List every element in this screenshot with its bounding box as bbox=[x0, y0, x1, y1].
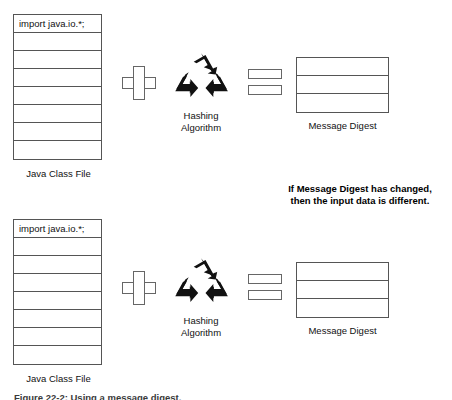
digest-line bbox=[297, 263, 388, 281]
class-file-line bbox=[14, 69, 101, 87]
hashing-algorithm-label: Hashing Algorithm bbox=[168, 315, 234, 338]
java-class-file-bottom: import java.io.*; bbox=[13, 219, 104, 384]
class-file-code-text: import java.io.*; bbox=[19, 19, 84, 29]
recycle-icon bbox=[173, 257, 229, 311]
class-file-code-text: import java.io.*; bbox=[19, 224, 84, 234]
hashing-label-line-1: Hashing bbox=[168, 315, 234, 327]
recycle-icon bbox=[173, 52, 229, 106]
plus-sign-icon bbox=[122, 66, 156, 100]
class-file-line bbox=[14, 328, 101, 346]
class-file-line bbox=[14, 238, 101, 256]
class-file-line bbox=[14, 274, 101, 292]
class-file-line bbox=[14, 33, 101, 51]
hashing-algorithm-bottom: Hashing Algorithm bbox=[168, 257, 234, 338]
class-file-line bbox=[14, 292, 101, 310]
equals-lower-bar bbox=[248, 290, 282, 300]
message-digest-box bbox=[296, 262, 389, 318]
class-file-line: import java.io.*; bbox=[14, 15, 101, 33]
hashing-algorithm-label: Hashing Algorithm bbox=[168, 110, 234, 133]
class-file-line bbox=[14, 105, 101, 123]
note-line-1: If Message Digest has changed, bbox=[272, 183, 448, 195]
class-file-line bbox=[14, 87, 101, 105]
digest-line bbox=[297, 58, 388, 76]
hashing-label-line-2: Algorithm bbox=[168, 122, 234, 134]
message-digest-label: Message Digest bbox=[296, 120, 389, 131]
digest-line bbox=[297, 94, 388, 112]
class-file-box: import java.io.*; bbox=[13, 219, 102, 365]
class-file-line bbox=[14, 346, 101, 364]
equals-sign-icon bbox=[248, 69, 282, 97]
digest-line bbox=[297, 281, 388, 299]
equals-sign-icon bbox=[248, 274, 282, 302]
java-class-file-label: Java Class File bbox=[13, 168, 104, 179]
class-file-line bbox=[14, 310, 101, 328]
message-digest-box bbox=[296, 57, 389, 113]
hashing-algorithm-top: Hashing Algorithm bbox=[168, 52, 234, 133]
class-file-line bbox=[14, 141, 101, 159]
class-file-box: import java.io.*; bbox=[13, 14, 102, 160]
message-digest-label: Message Digest bbox=[296, 325, 389, 336]
digest-line bbox=[297, 299, 388, 317]
message-digest-bottom: Message Digest bbox=[296, 262, 389, 336]
message-digest-diagram: import java.io.*; bbox=[0, 0, 452, 400]
hashing-label-line-2: Algorithm bbox=[168, 327, 234, 339]
class-file-line bbox=[14, 256, 101, 274]
java-class-file-label: Java Class File bbox=[13, 373, 104, 384]
equals-lower-bar bbox=[248, 85, 282, 95]
plus-center-fill bbox=[134, 78, 144, 88]
equals-upper-bar bbox=[248, 69, 282, 79]
hashing-label-line-1: Hashing bbox=[168, 110, 234, 122]
figure-caption: Figure 22-2: Using a message digest. bbox=[14, 392, 434, 400]
plus-center-fill bbox=[134, 283, 144, 293]
equals-upper-bar bbox=[248, 274, 282, 284]
message-digest-top: Message Digest bbox=[296, 57, 389, 131]
flow-row-bottom: import java.io.*; bbox=[0, 205, 452, 395]
digest-line bbox=[297, 76, 388, 94]
class-file-line: import java.io.*; bbox=[14, 220, 101, 238]
flow-row-top: import java.io.*; bbox=[0, 0, 452, 190]
plus-sign-icon bbox=[122, 271, 156, 305]
class-file-line bbox=[14, 51, 101, 69]
java-class-file-top: import java.io.*; bbox=[13, 14, 104, 179]
class-file-line bbox=[14, 123, 101, 141]
conclusion-note: If Message Digest has changed, then the … bbox=[272, 183, 448, 206]
